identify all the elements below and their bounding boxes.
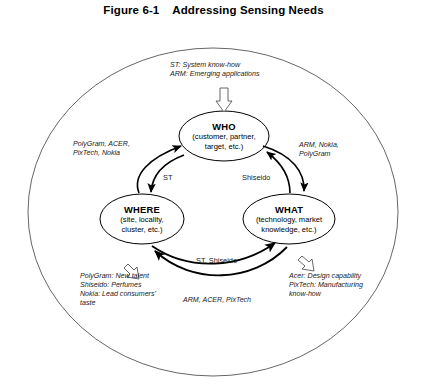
where-node-label: WHERE (site, locality, cluster, etc.) — [97, 204, 187, 234]
arrow-where-to-who — [137, 146, 181, 193]
where-node-title: WHERE — [97, 204, 187, 215]
annotation-bottom-right-line-1: Acer: Design capability — [289, 272, 363, 281]
hollow-arrow-into-who — [216, 88, 232, 112]
edge-label-who-where: ST — [163, 173, 172, 182]
annotation-left-line-2: PixTech, Nokia — [73, 149, 130, 158]
edge-label-where-what-upper: ST, Shiseido — [196, 256, 237, 265]
annotation-bottom-right-line-2: PixTech: Manufacturing — [289, 281, 363, 290]
what-node-detail-2: knowledge, etc.) — [238, 225, 340, 234]
edge-label-who-what: Shiseido — [242, 173, 270, 182]
edge-label-where-what-lower: ARM, ACER, PixTech — [183, 296, 251, 305]
annotation-bottom-left: PolyGram: New talent Shiseido: Perfumes … — [80, 272, 156, 308]
what-node-title: WHAT — [238, 204, 340, 215]
who-node-detail-1: (customer, partner, — [174, 132, 274, 141]
annotation-bottom-left-line-3: Nokia: Lead consumers' — [80, 290, 156, 299]
annotation-bottom-left-line-2: Shiseido: Perfumes — [80, 281, 156, 290]
diagram-canvas — [0, 0, 427, 392]
annotation-left: PolyGram, ACER, PixTech, Nokia — [73, 140, 130, 158]
who-node-title: WHO — [174, 121, 274, 132]
figure-container: Figure 6-1Addressing Sensing Needs — [0, 0, 427, 392]
annotation-right: ARM, Nokia, PolyGram — [299, 141, 339, 159]
annotation-left-line-1: PolyGram, ACER, — [73, 140, 130, 149]
hollow-arrow-into-what — [298, 256, 314, 271]
where-node-detail-1: (site, locality, — [97, 215, 187, 224]
annotation-top-line-2: ARM: Emerging applications — [170, 70, 260, 79]
what-node-label: WHAT (technology, market knowledge, etc.… — [238, 204, 340, 234]
who-node-label: WHO (customer, partner, target, etc.) — [174, 121, 274, 151]
annotation-bottom-right: Acer: Design capability PixTech: Manufac… — [289, 272, 363, 299]
annotation-bottom-right-line-3: know-how — [289, 290, 363, 299]
annotation-bottom-left-line-1: PolyGram: New talent — [80, 272, 156, 281]
who-node-detail-2: target, etc.) — [174, 142, 274, 151]
where-node-detail-2: cluster, etc.) — [97, 225, 187, 234]
what-node-detail-1: (technology, market — [238, 215, 340, 224]
annotation-bottom-left-line-4: taste — [80, 299, 156, 308]
outer-boundary-ellipse — [28, 48, 398, 376]
annotation-right-line-2: PolyGram — [299, 150, 339, 159]
annotation-top: ST: System know-how ARM: Emerging applic… — [170, 61, 260, 79]
annotation-right-line-1: ARM, Nokia, — [299, 141, 339, 150]
annotation-top-line-1: ST: System know-how — [170, 61, 260, 70]
